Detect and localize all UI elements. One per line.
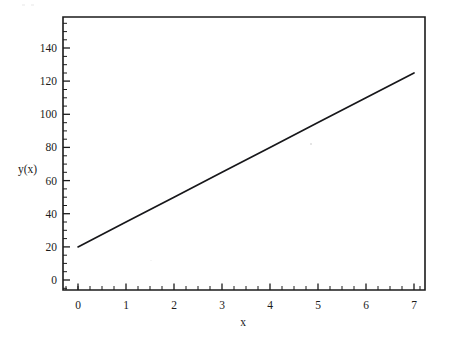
x-tick-label-5: 5 — [315, 299, 321, 311]
chart-page: 0 20 40 60 80 100 120 140 y(x) — [0, 0, 450, 337]
y-tick-label-80: 80 — [46, 141, 58, 153]
series-line-yx — [78, 73, 414, 247]
x-tick-label-4: 4 — [267, 299, 273, 311]
y-axis-tick-labels: 0 20 40 60 80 100 120 140 — [40, 42, 58, 286]
x-axis-tick-labels: 0 1 2 3 4 5 6 7 — [75, 299, 417, 311]
y-tick-label-40: 40 — [46, 208, 58, 220]
x-tick-label-0: 0 — [75, 299, 81, 311]
y-tick-label-100: 100 — [40, 108, 58, 120]
y-tick-label-120: 120 — [40, 75, 58, 87]
x-tick-label-1: 1 — [123, 299, 129, 311]
plot-frame — [63, 17, 425, 290]
y-tick-label-140: 140 — [40, 42, 58, 54]
x-tick-label-3: 3 — [219, 299, 225, 311]
y-tick-label-0: 0 — [51, 274, 57, 286]
line-plot: 0 20 40 60 80 100 120 140 y(x) — [0, 0, 450, 337]
x-tick-label-7: 7 — [411, 299, 417, 311]
y-axis-title: y(x) — [18, 163, 37, 176]
x-tick-label-2: 2 — [171, 299, 177, 311]
y-tick-label-60: 60 — [46, 175, 58, 187]
x-tick-label-6: 6 — [363, 299, 369, 311]
y-tick-label-20: 20 — [46, 241, 58, 253]
x-axis-title: x — [240, 316, 246, 328]
